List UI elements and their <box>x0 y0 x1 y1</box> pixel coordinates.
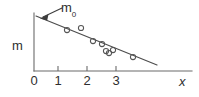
x-axis-label: x <box>179 75 186 88</box>
scatter-plot-figure: m x m0 0 1 2 3 <box>0 0 199 97</box>
trend-line <box>36 16 157 65</box>
data-point <box>110 47 115 52</box>
x-tick-label-1: 1 <box>52 74 64 87</box>
intercept-arrow-head <box>40 14 49 20</box>
intercept-annotation-label: m0 <box>61 1 76 18</box>
intercept-subscript: 0 <box>72 10 76 19</box>
x-tick-label-0: 0 <box>28 74 40 87</box>
data-point <box>78 25 83 30</box>
x-tick-label-3: 3 <box>110 74 122 87</box>
x-tick-label-2: 2 <box>81 74 93 87</box>
y-axis-label: m <box>12 39 23 52</box>
intercept-symbol: m <box>61 0 72 15</box>
